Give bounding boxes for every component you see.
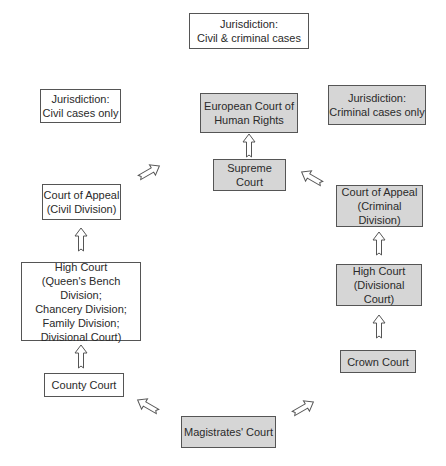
arrow-up-icon <box>75 228 87 252</box>
supreme-court: Supreme Court <box>213 159 286 191</box>
european-court-of-human-rights: European Court of Human Rights <box>200 93 298 133</box>
arrow-up-icon <box>75 345 87 369</box>
arrow-up-icon <box>373 232 385 256</box>
court-of-appeal-criminal: Court of Appeal (Criminal Division) <box>336 185 423 227</box>
legend-criminal-only: Jurisdiction: Criminal cases only <box>328 85 426 125</box>
arrow-up-right-icon <box>137 166 161 178</box>
arrow-up-right-icon <box>291 402 315 414</box>
arrow-up-left-icon <box>136 400 160 412</box>
high-court-divisional: High Court (Divisional Court) <box>336 264 422 306</box>
arrow-up-icon <box>373 315 385 339</box>
legend-civil-only: Jurisdiction: Civil cases only <box>40 89 121 123</box>
magistrates-court: Magistrates' Court <box>181 416 276 448</box>
high-court-civil: High Court (Queen's Bench Division; Chan… <box>21 262 141 341</box>
arrow-up-icon <box>243 134 255 158</box>
arrow-up-left-icon <box>300 172 324 184</box>
court-of-appeal-civil: Court of Appeal (Civil Division) <box>42 184 121 220</box>
county-court: County Court <box>44 373 124 397</box>
legend-civil-criminal: Jurisdiction: Civil & criminal cases <box>189 13 309 49</box>
crown-court: Crown Court <box>340 350 416 373</box>
